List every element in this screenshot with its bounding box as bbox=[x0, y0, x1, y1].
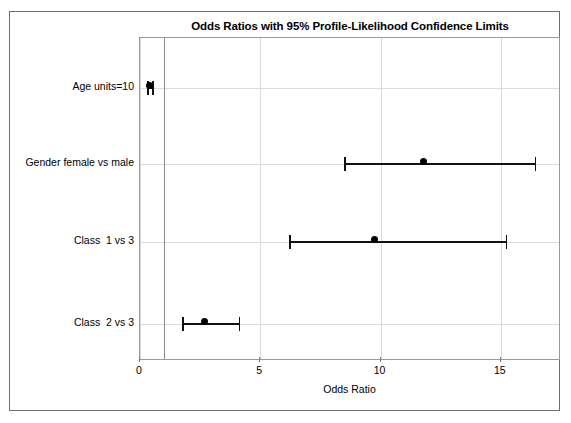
x-axis-title: Odds Ratio bbox=[139, 383, 560, 395]
chart-title: Odds Ratios with 95% Profile-Likelihood … bbox=[140, 20, 560, 32]
x-tick-mark bbox=[259, 357, 260, 362]
confidence-interval-row bbox=[140, 315, 559, 333]
y-axis-label: Age units=10 bbox=[6, 80, 134, 92]
y-axis-category-labels: Age units=10Gender female vs maleClass 1… bbox=[0, 37, 134, 360]
x-tick-label: 15 bbox=[494, 364, 506, 376]
x-tick-label: 10 bbox=[374, 364, 386, 376]
x-tick-label: 0 bbox=[136, 364, 142, 376]
x-tick-mark bbox=[380, 357, 381, 362]
confidence-interval-upper-cap bbox=[506, 235, 508, 249]
y-axis-label: Class 2 vs 3 bbox=[6, 316, 134, 328]
x-tick-mark bbox=[500, 357, 501, 362]
confidence-interval-lower-cap bbox=[289, 235, 291, 249]
confidence-interval-line bbox=[289, 241, 506, 243]
x-axis-ticks: 051015 bbox=[139, 362, 560, 382]
x-tick-label: 5 bbox=[256, 364, 262, 376]
confidence-interval-row bbox=[140, 233, 559, 251]
y-axis-label: Gender female vs male bbox=[6, 156, 134, 168]
confidence-interval-line bbox=[182, 323, 239, 325]
y-axis-label: Class 1 vs 3 bbox=[6, 234, 134, 246]
x-tick-mark bbox=[139, 357, 140, 362]
confidence-interval-row bbox=[140, 155, 559, 173]
forest-plot-figure: Odds Ratios with 95% Profile-Likelihood … bbox=[0, 0, 571, 423]
odds-ratio-point-estimate bbox=[146, 82, 153, 89]
confidence-interval-row bbox=[140, 79, 559, 97]
confidence-interval-lower-cap bbox=[344, 157, 346, 171]
confidence-interval-upper-cap bbox=[535, 157, 537, 171]
confidence-interval-upper-cap bbox=[239, 317, 241, 331]
confidence-interval-line bbox=[344, 163, 534, 165]
confidence-interval-lower-cap bbox=[182, 317, 184, 331]
plot-area bbox=[139, 37, 560, 360]
